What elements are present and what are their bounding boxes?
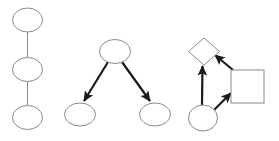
node-circle-o1[interactable] [189, 105, 218, 131]
edge-o1-to-s1[interactable] [214, 93, 231, 110]
branching-tree-graph-nodes [65, 40, 171, 127]
edge-p1-to-t1[interactable] [84, 62, 108, 101]
edge-s1-to-d1[interactable] [215, 55, 233, 70]
node-square-s1[interactable] [231, 70, 264, 103]
node-ellipse-t1[interactable] [65, 103, 96, 126]
node-ellipse-c1[interactable] [13, 8, 43, 32]
node-ellipse-c3[interactable] [13, 106, 43, 130]
vertical-chain-graph-nodes [13, 8, 43, 130]
diagram-svg [0, 0, 279, 141]
diagram-canvas [0, 0, 279, 141]
edge-p1-to-t2[interactable] [122, 62, 150, 101]
node-ellipse-p1[interactable] [100, 40, 131, 64]
node-diamond-d1[interactable] [189, 38, 220, 65]
mixed-shape-graph-nodes [189, 38, 265, 131]
node-ellipse-c2[interactable] [13, 58, 43, 82]
branching-tree-graph-edges [84, 62, 150, 101]
edge-o1-to-d1[interactable] [202, 66, 203, 105]
node-ellipse-t2[interactable] [140, 103, 171, 126]
nodes-layer [13, 8, 265, 131]
